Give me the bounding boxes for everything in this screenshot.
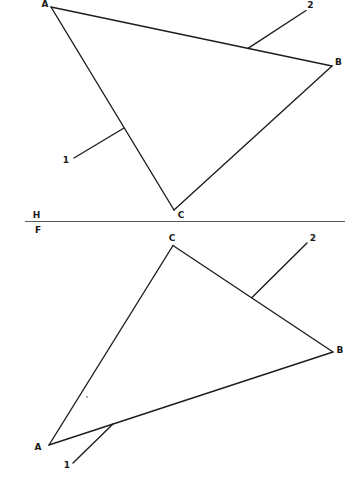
front-view-vertex-label-a: A bbox=[35, 442, 42, 452]
top-view-vertex-label-b: B bbox=[335, 57, 342, 67]
projection-diagram: HF21ABC21CBA bbox=[0, 0, 349, 486]
front-view-vertex-label-c: C bbox=[169, 233, 176, 243]
top-view-construction-line-1 bbox=[74, 128, 124, 158]
top-view-edge-CA bbox=[51, 7, 174, 210]
front-view-edge-BA bbox=[49, 352, 333, 445]
figure-container: HF21ABC21CBA bbox=[0, 0, 349, 486]
top-view-edge-AB bbox=[51, 7, 332, 66]
top-view-vertex-label-a: A bbox=[42, 0, 49, 9]
fold-line-label-h: H bbox=[33, 210, 41, 220]
front-view: 21CBA bbox=[35, 233, 344, 471]
front-view-construction-line-label-2: 2 bbox=[310, 233, 316, 243]
top-view-construction-line-label-1: 1 bbox=[63, 155, 69, 165]
front-view-vertex-label-b: B bbox=[337, 345, 344, 355]
front-view-point-mark bbox=[86, 396, 88, 398]
top-view-vertex-label-c: C bbox=[178, 210, 185, 220]
front-view-edge-AC bbox=[49, 246, 173, 446]
top-view-edge-BC bbox=[174, 66, 332, 210]
front-view-construction-line-label-1: 1 bbox=[64, 460, 70, 470]
front-view-edge-CB bbox=[173, 246, 333, 353]
top-view-construction-line-2 bbox=[248, 11, 306, 49]
top-view-construction-line-label-2: 2 bbox=[307, 0, 313, 10]
fold-line-label-f: F bbox=[35, 225, 41, 235]
front-view-construction-line-2 bbox=[252, 243, 307, 298]
top-view: 21ABC bbox=[42, 0, 343, 220]
front-view-construction-line-1 bbox=[73, 424, 113, 463]
